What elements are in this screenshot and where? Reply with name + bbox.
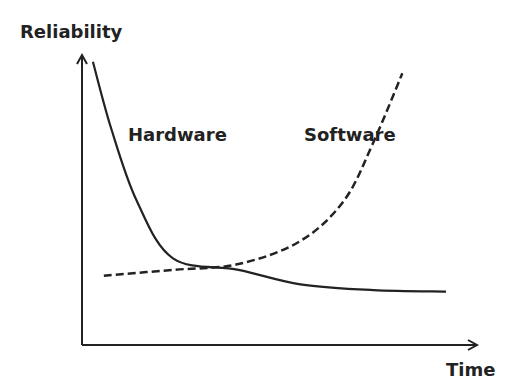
x-axis-label: Time <box>446 359 495 380</box>
reliability-diagram: Reliability Time Hardware Software <box>0 0 509 390</box>
y-axis-label: Reliability <box>20 21 123 42</box>
annotation-hardware: Hardware <box>128 124 227 145</box>
annotation-software: Software <box>304 124 396 145</box>
series-software-line <box>104 73 402 275</box>
